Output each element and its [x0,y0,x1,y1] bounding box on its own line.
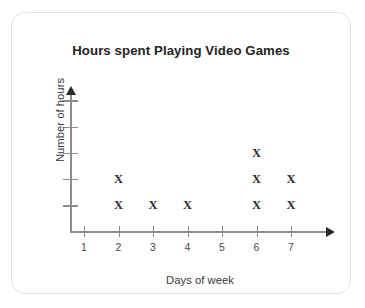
chart-card: Hours spent Playing Video Games 1234567 … [11,12,351,294]
x-axis-arrow-icon [326,227,335,237]
x-axis-tick [291,226,292,237]
x-axis-tick [153,226,154,237]
x-axis-line [70,231,328,233]
x-axis-tick-label: 6 [247,241,267,253]
x-axis-tick-label: 7 [281,241,301,253]
x-axis-tick [222,226,223,237]
chart-title: Hours spent Playing Video Games [12,43,350,58]
x-axis-tick-label: 1 [74,241,94,253]
data-point-marker: X [281,173,301,186]
x-axis-tick [119,226,120,237]
data-point-marker: X [247,147,267,160]
data-point-marker: X [247,173,267,186]
y-axis-tick [63,205,78,206]
x-axis-tick [257,226,258,237]
data-point-marker: X [109,199,129,212]
data-point-marker: X [281,199,301,212]
x-axis-tick-label: 4 [178,241,198,253]
x-axis-tick [84,226,85,237]
y-axis-line [70,94,72,233]
x-axis-tick [188,226,189,237]
x-axis-title: Days of week [58,274,342,286]
x-axis-tick-label: 2 [109,241,129,253]
y-axis-tick [63,179,78,180]
data-point-marker: X [109,173,129,186]
x-axis-tick-label: 5 [212,241,232,253]
data-point-marker: X [247,199,267,212]
y-axis-arrow-icon [66,86,76,95]
plot-area: 1234567 XXXXXXXXX Number of hours Days o… [58,86,342,241]
y-axis-title: Number of hours [54,65,66,175]
data-point-marker: X [178,199,198,212]
x-axis-tick-label: 3 [143,241,163,253]
data-point-marker: X [143,199,163,212]
